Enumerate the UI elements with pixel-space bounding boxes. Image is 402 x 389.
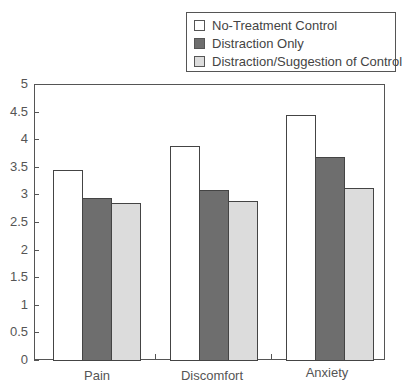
y-tick-label: 2.5 (4, 214, 28, 229)
x-tick-label: Anxiety (277, 365, 377, 380)
x-tick (155, 354, 156, 360)
y-tick-label: 5 (4, 76, 28, 91)
bar-discomfort-2 (228, 201, 258, 361)
y-tick (34, 112, 39, 113)
y-tick (34, 277, 39, 278)
y-tick (34, 194, 39, 195)
legend-swatch-distraction-suggestion (194, 56, 205, 67)
legend-item-no-treatment: No-Treatment Control (194, 17, 337, 33)
bar-pain-2 (111, 203, 141, 361)
y-tick-label: 2 (4, 242, 28, 257)
y-tick-label: 0.5 (4, 324, 28, 339)
bar-anxiety-1 (315, 157, 345, 361)
y-tick-label: 3.5 (4, 159, 28, 174)
bar-anxiety-0 (286, 115, 316, 361)
bar-anxiety-2 (344, 188, 374, 361)
legend-item-distraction-only: Distraction Only (194, 35, 304, 51)
y-tick-label: 4.5 (4, 104, 28, 119)
bar-pain-1 (82, 198, 112, 361)
y-tick (34, 332, 39, 333)
bar-discomfort-1 (199, 190, 229, 361)
legend-swatch-no-treatment (194, 20, 205, 31)
y-tick (34, 167, 39, 168)
y-tick (34, 139, 39, 140)
legend-item-distraction-suggestion: Distraction/Suggestion of Control (194, 53, 402, 69)
y-tick (34, 222, 39, 223)
y-tick-label: 1 (4, 297, 28, 312)
legend-label: Distraction Only (212, 36, 304, 51)
y-tick-label: 0 (4, 352, 28, 367)
x-tick-label: Discomfort (162, 368, 262, 383)
y-tick (34, 250, 39, 251)
chart-legend: No-Treatment Control Distraction Only Di… (186, 12, 396, 72)
y-tick (34, 360, 39, 361)
y-tick (34, 305, 39, 306)
x-tick-label: Pain (47, 368, 147, 383)
x-tick (271, 354, 272, 360)
y-tick-label: 1.5 (4, 269, 28, 284)
legend-label: Distraction/Suggestion of Control (212, 54, 402, 69)
legend-swatch-distraction-only (194, 38, 205, 49)
y-tick-label: 3 (4, 186, 28, 201)
legend-label: No-Treatment Control (212, 18, 337, 33)
y-tick (34, 84, 39, 85)
y-tick-label: 4 (4, 131, 28, 146)
bar-discomfort-0 (170, 146, 200, 361)
bar-pain-0 (53, 170, 83, 361)
